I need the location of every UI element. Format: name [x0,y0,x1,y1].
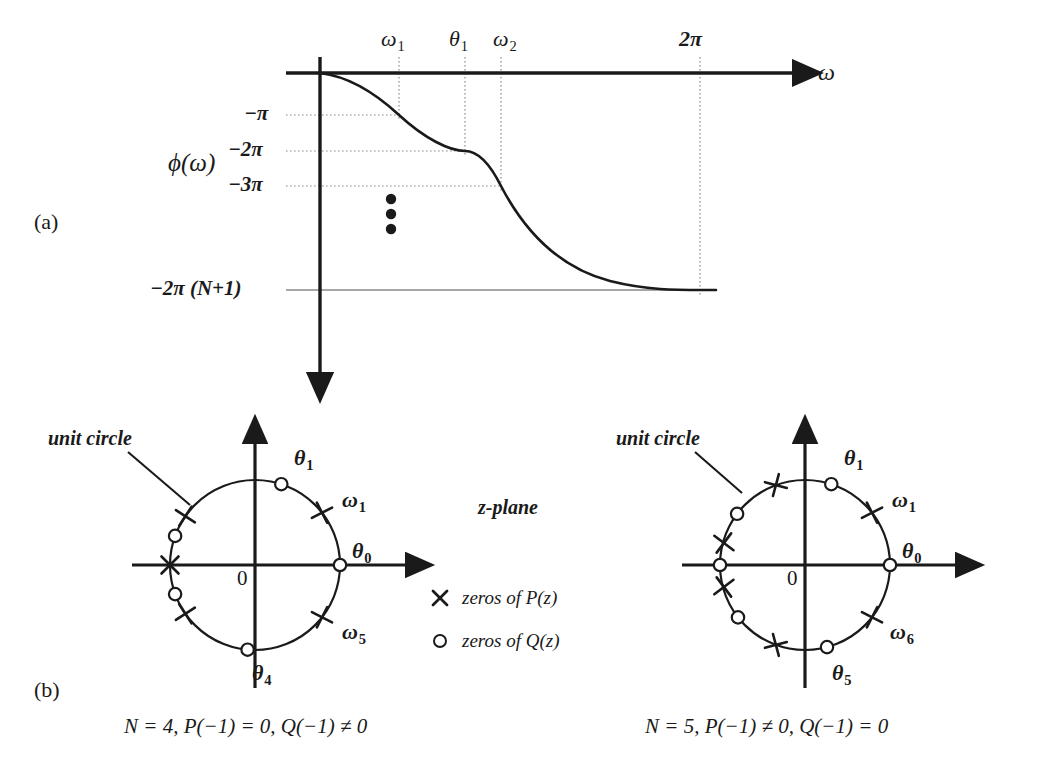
omega-axis-label: ω [818,60,835,84]
left-origin-label: 0 [237,568,248,589]
z-plane-label: z-plane [478,497,538,517]
panel-a-plot [286,57,795,375]
xtick-omega-1-sub: 1 [397,38,405,54]
right-omega6-sub: 6 [906,631,914,647]
ytick-minus-3pi: −3π [228,174,263,195]
panel-a-tag: (a) [34,211,58,233]
right-circle-caption: N = 5, P(−1) ≠ 0, Q(−1) = 0 [645,716,888,737]
left-label-omega-5: ω5 [342,621,366,646]
xtick-omega-2: ω2 [493,28,517,53]
xtick-theta-1-sub: 1 [460,38,468,54]
right-theta1-sub: 1 [855,457,863,473]
left-circle-caption: N = 4, P(−1) = 0, Q(−1) ≠ 0 [124,716,367,737]
right-unit-circle-label: unit circle [616,428,700,448]
figure-vector-layer [0,0,1045,775]
xtick-omega-2-base: ω [493,26,509,51]
left-omega1-sub: 1 [358,499,366,515]
xtick-omega-2-sub: 2 [509,38,517,54]
right-theta5-sub: 5 [843,672,851,688]
vertical-ellipsis-dots [386,194,396,234]
legend-cross-marker [433,591,447,605]
right-theta0-sub: 0 [913,550,921,566]
right-omega1-sub: 1 [908,499,916,515]
left-theta0-base: θ [352,538,363,563]
left-theta1-sub: 1 [305,457,313,473]
right-origin-label: 0 [787,568,798,589]
left-label-omega-1: ω1 [342,489,366,514]
xtick-omega-1-base: ω [381,26,397,51]
ytick-minus-pi: −π [244,103,268,124]
xtick-omega-1: ω1 [381,28,405,53]
right-omega6-base: ω [890,619,906,644]
figure-root: (a) ϕ(ω) ω ω1 θ1 ω2 2π −π −2π −3π −2π (N… [0,0,1045,775]
legend-zeros-of-P-label: zeros of P(z) [462,588,557,607]
panel-b-tag: (b) [34,679,60,701]
right-unit-circle-leader-line [695,452,742,493]
right-label-omega-6: ω6 [890,621,914,646]
left-unit-circle-leader-line [128,452,190,505]
xtick-two-pi: 2π [679,28,702,50]
left-label-theta-4: θ4 [252,662,272,687]
xtick-theta-1-base: θ [449,26,460,51]
ytick-minus-2pi: −2π [228,139,263,160]
right-label-theta-5: θ5 [832,662,852,687]
left-theta0-sub: 0 [363,550,371,566]
left-label-theta-1: θ1 [294,447,314,472]
right-label-theta-1: θ1 [844,447,864,472]
phase-axis-label: ϕ(ω) [168,150,215,175]
panel-a-vertical-gridlines [399,57,700,296]
ytick-minus-2pi-N-plus-1: −2π (N+1) [150,278,242,299]
left-theta1-base: θ [294,445,305,470]
legend-circle-marker [434,635,446,647]
right-theta1-base: θ [844,445,855,470]
left-omega5-sub: 5 [358,631,366,647]
legend-markers [433,591,447,647]
left-theta4-sub: 4 [263,672,271,688]
left-theta4-base: θ [252,660,263,685]
left-label-theta-0: θ0 [352,540,372,565]
xtick-theta-1: θ1 [449,28,468,53]
right-label-omega-1: ω1 [892,489,916,514]
right-theta5-base: θ [832,660,843,685]
right-label-theta-0: θ0 [902,540,922,565]
right-theta0-base: θ [902,538,913,563]
left-omega1-base: ω [342,487,358,512]
left-unit-circle-label: unit circle [48,428,132,448]
phase-response-curve [320,73,716,290]
legend-zeros-of-Q-label: zeros of Q(z) [462,631,559,650]
right-omega1-base: ω [892,487,908,512]
left-omega5-base: ω [342,619,358,644]
